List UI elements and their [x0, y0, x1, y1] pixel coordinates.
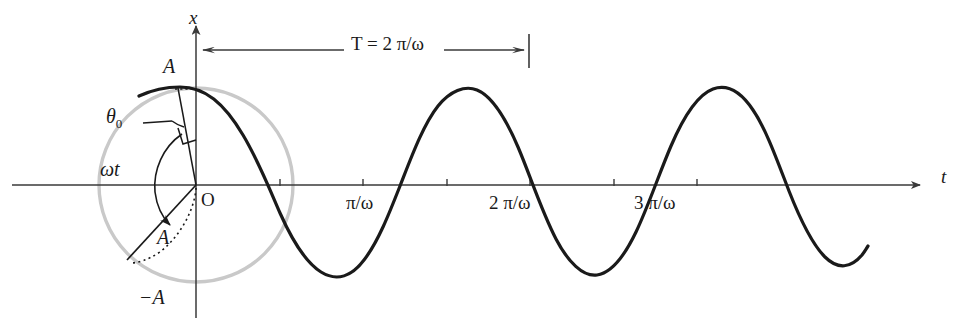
origin-label: O — [201, 190, 215, 209]
phase-constant-label: θ0 — [106, 106, 122, 130]
theta-subscript: 0 — [116, 116, 123, 131]
tick-label-2pi-omega: 2 π/ω — [489, 193, 531, 212]
radius-vector — [127, 185, 196, 260]
theta-symbol: θ — [106, 105, 116, 127]
displacement-curve — [139, 87, 868, 277]
amplitude-positive-label: A — [163, 56, 175, 76]
t-axis-label: t — [941, 167, 946, 186]
x-axis-label: x — [189, 8, 197, 27]
figure-canvas: x t A A −A O θ0 ωt T = 2 π/ω π/ω 2 π/ω 3… — [0, 0, 973, 333]
period-label: T = 2 π/ω — [351, 34, 424, 53]
harmonic-motion-diagram — [0, 0, 973, 333]
omega-t-label: ωt — [100, 159, 120, 179]
amplitude-negative-label: −A — [139, 287, 165, 307]
amplitude-radius-label: A — [157, 227, 169, 247]
tick-label-pi-omega: π/ω — [346, 193, 373, 212]
theta-leader-line — [143, 121, 172, 123]
theta-arc — [172, 121, 184, 127]
omega-t-arc — [155, 134, 182, 225]
tick-label-3pi-omega: 3 π/ω — [634, 193, 676, 212]
